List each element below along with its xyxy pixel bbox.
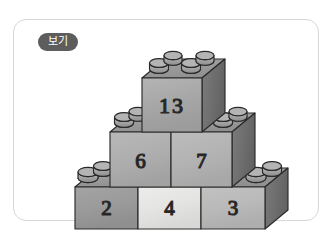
brick-label-13: 13 — [159, 93, 185, 118]
brick-top-13: 13 — [142, 78, 202, 132]
brick-bottom-3: 3 — [201, 187, 265, 229]
brick-middle-7: 7 — [171, 132, 232, 187]
brick-label-4: 4 — [164, 196, 175, 220]
brick-stud — [263, 162, 282, 177]
brick-label-7: 7 — [196, 149, 207, 173]
brick-stud — [196, 51, 214, 65]
brick-stud — [229, 107, 247, 121]
example-badge: 보기 — [38, 33, 78, 51]
brick-bottom-2: 2 — [75, 187, 138, 229]
example-card: 보기 — [13, 19, 319, 221]
brick-bottom-4: 4 — [138, 187, 201, 229]
brick-label-6: 6 — [135, 149, 146, 173]
brick-label-3: 3 — [228, 196, 239, 220]
brick-stud — [164, 51, 182, 65]
brick-middle-6: 6 — [110, 132, 171, 187]
brick-pyramid-diagram: 2 4 3 — [14, 20, 334, 232]
brick-label-2: 2 — [101, 196, 112, 220]
